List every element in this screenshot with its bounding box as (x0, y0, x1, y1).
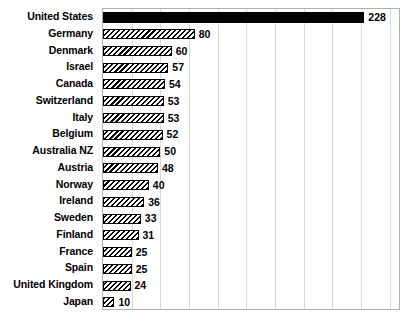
bar (103, 79, 165, 89)
category-label: Denmark (0, 42, 98, 59)
bar-series: 2288060575453535250484036333125252410 (103, 9, 399, 309)
category-label: Ireland (0, 192, 98, 209)
bar (103, 214, 141, 224)
bar-value-label: 54 (169, 79, 181, 90)
bar-value-label: 40 (153, 180, 165, 191)
bar-value-label: 228 (368, 12, 386, 23)
category-label: Australia NZ (0, 142, 98, 159)
bar-value-label: 25 (136, 264, 148, 275)
bar (103, 247, 132, 257)
bar-value-label: 10 (118, 297, 130, 308)
bar-row: 60 (103, 43, 399, 60)
category-label: Israel (0, 58, 98, 75)
bar-row: 33 (103, 210, 399, 227)
category-label: Switzerland (0, 92, 98, 109)
bar-value-label: 53 (168, 113, 180, 124)
bar (103, 130, 163, 140)
bar (103, 12, 364, 23)
bar-value-label: 57 (172, 62, 184, 73)
bar (103, 230, 139, 240)
bar-row: 25 (103, 260, 399, 277)
category-label: United Kingdom (0, 276, 98, 293)
category-label: Belgium (0, 125, 98, 142)
bar-value-label: 60 (176, 46, 188, 57)
bar (103, 147, 160, 157)
bar-row: 228 (103, 9, 399, 26)
category-label: Sweden (0, 209, 98, 226)
bar-row: 53 (103, 93, 399, 110)
bar (103, 163, 158, 173)
category-label: Finland (0, 226, 98, 243)
bar-value-label: 80 (199, 29, 211, 40)
bar-value-label: 50 (164, 146, 176, 157)
bar (103, 264, 132, 274)
plot-area: 2288060575453535250484036333125252410 (102, 8, 400, 310)
bar-value-label: 31 (143, 230, 155, 241)
bar (103, 29, 195, 39)
bar-row: 10 (103, 294, 399, 310)
category-axis-labels: United StatesGermanyDenmarkIsraelCanadaS… (0, 8, 98, 310)
bar-row: 36 (103, 193, 399, 210)
bar-row: 54 (103, 76, 399, 93)
bar (103, 46, 172, 56)
bar (103, 297, 114, 307)
bar-value-label: 24 (135, 280, 147, 291)
bar-value-label: 52 (167, 129, 179, 140)
category-label: Spain (0, 259, 98, 276)
bar-row: 53 (103, 110, 399, 127)
category-label: Germany (0, 25, 98, 42)
category-label: Canada (0, 75, 98, 92)
bar-value-label: 53 (168, 96, 180, 107)
bar (103, 96, 164, 106)
category-label: Norway (0, 176, 98, 193)
bar-chart: United StatesGermanyDenmarkIsraelCanadaS… (0, 0, 408, 324)
category-label: Japan (0, 293, 98, 310)
bar (103, 197, 144, 207)
bar-row: 80 (103, 26, 399, 43)
category-label: Austria (0, 159, 98, 176)
bar-value-label: 48 (162, 163, 174, 174)
bar (103, 281, 131, 291)
bar-value-label: 36 (148, 197, 160, 208)
category-label: United States (0, 8, 98, 25)
category-label: France (0, 243, 98, 260)
bar-row: 52 (103, 126, 399, 143)
bar-row: 57 (103, 59, 399, 76)
category-label: Italy (0, 109, 98, 126)
bar-row: 24 (103, 277, 399, 294)
bar-row: 40 (103, 177, 399, 194)
bar-value-label: 33 (145, 213, 157, 224)
bar-row: 25 (103, 244, 399, 261)
bar (103, 113, 164, 123)
bar-row: 31 (103, 227, 399, 244)
bar (103, 180, 149, 190)
bar-row: 50 (103, 143, 399, 160)
bar-row: 48 (103, 160, 399, 177)
bar (103, 63, 168, 73)
bar-value-label: 25 (136, 247, 148, 258)
